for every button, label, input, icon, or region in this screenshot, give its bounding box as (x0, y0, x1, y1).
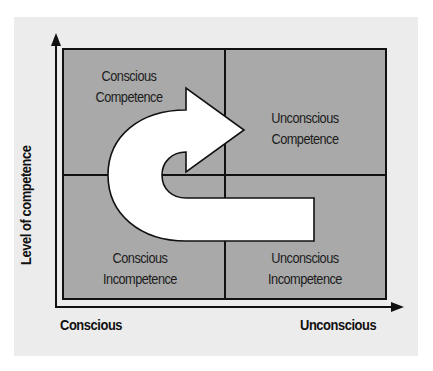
quadrant-label-line1: Conscious (84, 66, 174, 87)
y-axis-arrowhead-icon (51, 33, 61, 46)
quadrant-label-line1: Conscious (93, 248, 186, 269)
quadrant-label-conscious-competence: Conscious Competence (84, 66, 174, 108)
quadrant-label-line2: Incompetence (258, 269, 351, 290)
y-axis-label: Level of competence (17, 146, 34, 265)
x-axis-label-conscious: Conscious (60, 316, 122, 333)
quadrant-label-line2: Competence (258, 129, 351, 150)
quadrant-label-line2: Competence (84, 87, 174, 108)
quadrant-label-unconscious-competence: Unconscious Competence (258, 108, 351, 150)
quadrant-label-line1: Unconscious (258, 108, 351, 129)
quadrant-label-line1: Unconscious (258, 248, 351, 269)
quadrant-label-conscious-incompetence: Conscious Incompetence (93, 248, 186, 290)
quadrant-label-line2: Incompetence (93, 269, 186, 290)
x-axis-label-unconscious: Unconscious (300, 316, 376, 333)
x-axis-arrowhead-icon (391, 302, 404, 312)
quadrant-label-unconscious-incompetence: Unconscious Incompetence (258, 248, 351, 290)
